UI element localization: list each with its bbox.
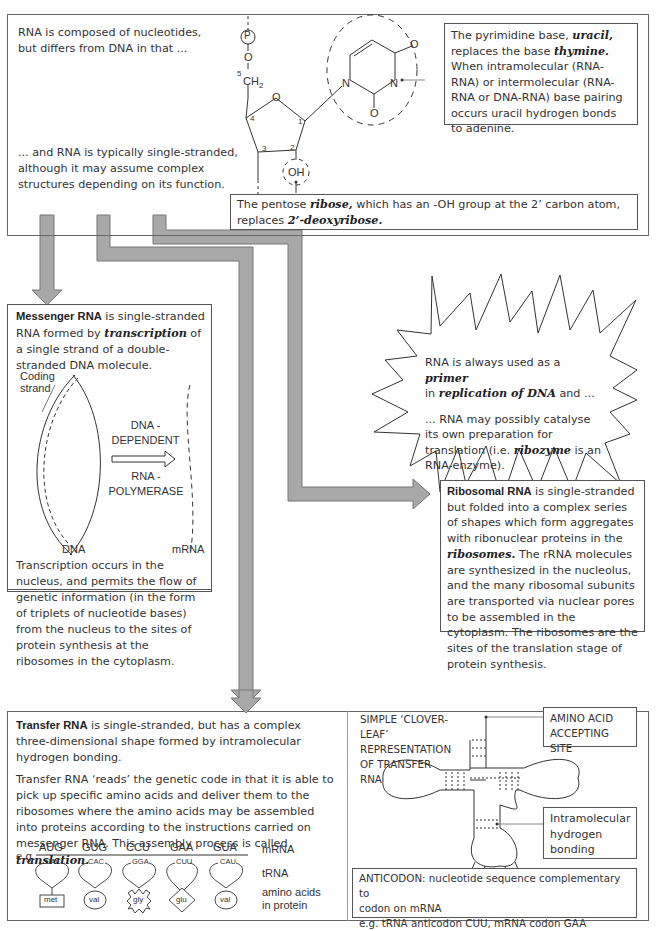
hydrogen-bonding-box: Intramolecular hydrogen bonding <box>543 807 637 859</box>
amino-site-box: AMINO ACID ACCEPTING SITE <box>543 707 637 747</box>
anticodon-box: ANTICODON: nucleotide sequence complemen… <box>352 868 637 918</box>
